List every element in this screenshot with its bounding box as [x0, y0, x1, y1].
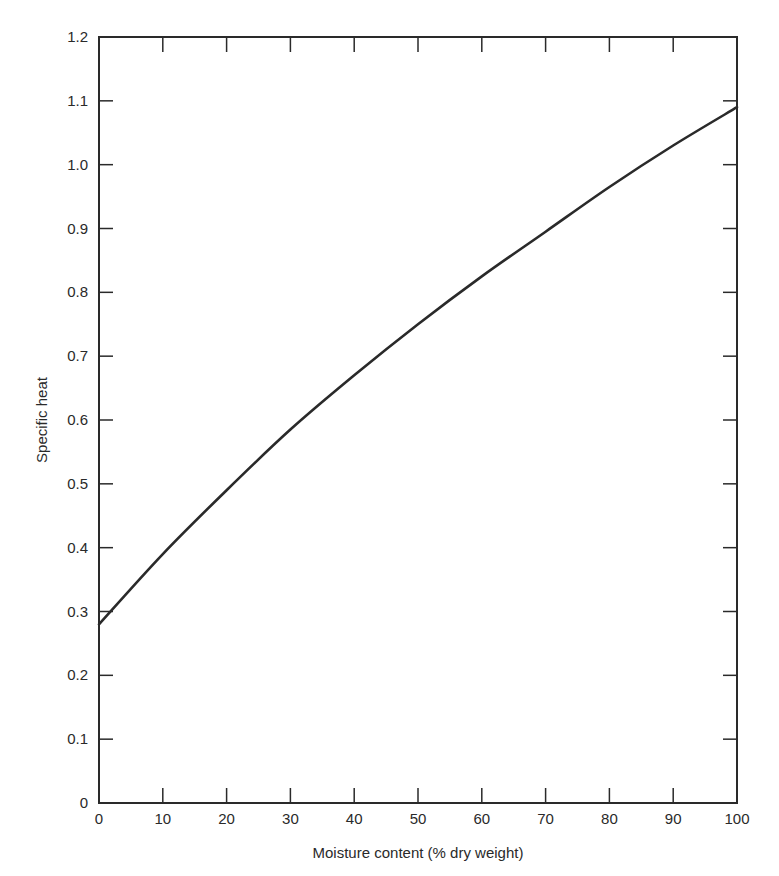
- axis-ticks: [99, 37, 737, 803]
- y-tick-label: 0: [80, 794, 88, 811]
- y-tick-label: 0.5: [67, 475, 88, 492]
- y-tick-label: 0.4: [67, 539, 88, 556]
- y-tick-label: 0.8: [67, 283, 88, 300]
- y-tick-label: 0.6: [67, 411, 88, 428]
- y-tick-label: 1.2: [67, 28, 88, 45]
- x-tick-label: 100: [724, 810, 749, 827]
- specific-heat-chart: 010203040506070809010000.10.20.30.40.50.…: [0, 0, 779, 876]
- data-line: [99, 107, 737, 624]
- y-tick-label: 1.1: [67, 92, 88, 109]
- x-tick-label: 10: [154, 810, 171, 827]
- y-tick-label: 0.3: [67, 603, 88, 620]
- y-tick-label: 0.7: [67, 347, 88, 364]
- tick-labels: 010203040506070809010000.10.20.30.40.50.…: [67, 28, 749, 827]
- y-tick-label: 0.9: [67, 220, 88, 237]
- x-tick-label: 40: [346, 810, 363, 827]
- y-tick-label: 0.2: [67, 666, 88, 683]
- x-axis-title: Moisture content (% dry weight): [313, 844, 524, 861]
- y-tick-label: 1.0: [67, 156, 88, 173]
- y-axis-title: Specific heat: [33, 376, 50, 463]
- x-tick-label: 90: [665, 810, 682, 827]
- y-tick-label: 0.1: [67, 730, 88, 747]
- x-tick-label: 50: [410, 810, 427, 827]
- x-tick-label: 80: [601, 810, 618, 827]
- plot-frame: [99, 37, 737, 803]
- x-tick-label: 60: [473, 810, 490, 827]
- x-tick-label: 30: [282, 810, 299, 827]
- x-tick-label: 70: [537, 810, 554, 827]
- x-tick-label: 0: [95, 810, 103, 827]
- x-tick-label: 20: [218, 810, 235, 827]
